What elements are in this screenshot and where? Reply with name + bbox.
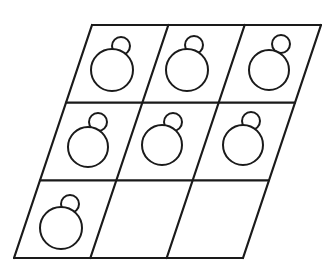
large-circle-shape: [223, 125, 263, 165]
cell-with-circles: [249, 35, 290, 90]
cell-with-circles: [166, 36, 208, 91]
sheared-grid-figure: [0, 0, 332, 269]
large-circle-shape: [249, 50, 289, 90]
grid-diagram: [0, 0, 332, 269]
cell-with-circles: [68, 113, 108, 167]
large-circle-shape: [68, 127, 108, 167]
large-circle-shape: [40, 207, 82, 249]
large-circle-shape: [91, 49, 133, 91]
large-circle-shape: [166, 49, 208, 91]
cell-with-circles: [91, 37, 133, 91]
cell-with-circles: [142, 113, 182, 165]
cell-with-circles: [223, 112, 263, 165]
large-circle-shape: [142, 125, 182, 165]
cell-with-circles: [40, 195, 82, 249]
